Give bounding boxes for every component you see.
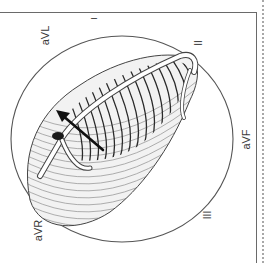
- lead-label-avf: aVF: [241, 129, 252, 149]
- lead-label-avr: aVR: [33, 220, 44, 241]
- lead-label-ii: II: [194, 40, 204, 46]
- av-node: [52, 132, 64, 140]
- lead-label-i: I: [90, 17, 99, 20]
- lead-label-avl: aVL: [40, 26, 51, 46]
- lead-label-iii: III: [203, 211, 213, 219]
